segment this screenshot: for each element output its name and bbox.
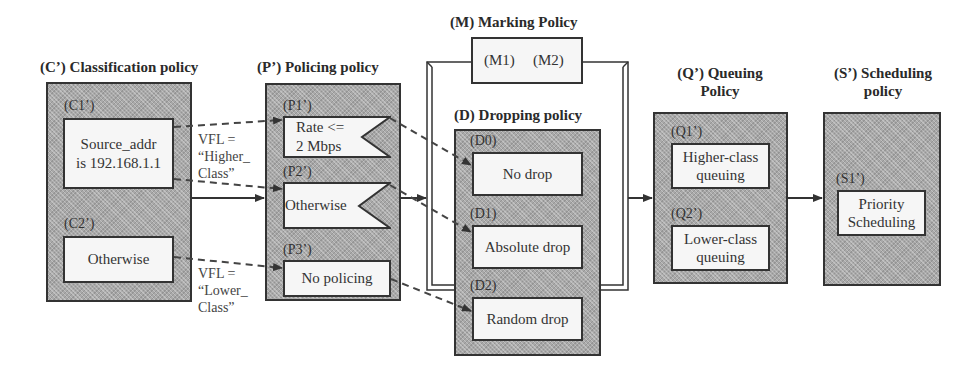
rule-tag-d0: (D0)	[470, 133, 496, 149]
marking-rule-m1: (M1)	[484, 52, 515, 68]
rule-tag-p1: (P1’)	[283, 98, 312, 114]
dropping-policy-title: (D) Dropping policy	[454, 106, 582, 124]
rule-p3-text: No policing	[301, 269, 372, 288]
queuing-title-line1: (Q’) Queuing	[655, 64, 785, 82]
rule-box-p1: Rate <= 2 Mbps	[283, 116, 391, 158]
vfl-lower-line3: Class”	[198, 299, 248, 316]
vfl-higher-line1: VFL =	[198, 131, 250, 148]
rule-d1-text: Absolute drop	[485, 238, 570, 257]
rule-p1-line2: 2 Mbps	[296, 137, 344, 156]
rule-q2-line1: Lower-class	[684, 230, 757, 248]
scheduling-title-line1: (S’) Scheduling	[818, 64, 948, 82]
rule-c2-text: Otherwise	[88, 250, 150, 269]
marking-policy-title: (M) Marking Policy	[450, 13, 577, 31]
rule-tag-p3: (P3’)	[283, 242, 312, 258]
rule-box-c1: Source_addr is 192.168.1.1	[63, 118, 174, 189]
scheduling-policy-title: (S’) Scheduling policy	[818, 64, 948, 100]
rule-tag-c1: (C1’)	[64, 98, 94, 114]
rule-box-d2: Random drop	[472, 297, 583, 341]
rule-d2-text: Random drop	[486, 310, 568, 329]
classification-policy-title: (C’) Classification policy	[40, 58, 198, 76]
rule-tag-d2: (D2)	[470, 278, 496, 294]
rule-p1-line1: Rate <=	[296, 118, 344, 137]
rule-tag-q2: (Q2’)	[671, 206, 702, 222]
rule-tag-s1: (S1’)	[836, 171, 865, 187]
rule-c1-line1: Source_addr	[81, 135, 157, 154]
rule-q1-line2: queuing	[696, 166, 744, 184]
rule-s1-line1: Priority	[859, 195, 905, 213]
rule-box-d1: Absolute drop	[472, 225, 583, 269]
vfl-label-lower: VFL = “Lower_ Class”	[198, 265, 248, 316]
rule-tag-d1: (D1)	[470, 206, 496, 222]
queuing-title-line2: Policy	[655, 82, 785, 100]
rule-tag-c2: (C2’)	[64, 216, 94, 232]
rule-tag-p2: (P2’)	[283, 164, 312, 180]
rule-box-p3: No policing	[283, 260, 391, 297]
queuing-policy-title: (Q’) Queuing Policy	[655, 64, 785, 100]
vfl-lower-line1: VFL =	[198, 265, 248, 282]
rule-box-s1: Priority Scheduling	[837, 190, 926, 236]
rule-box-p2: Otherwise	[283, 182, 391, 229]
vfl-label-higher: VFL = “Higher_ Class”	[198, 131, 250, 182]
rule-box-c2: Otherwise	[63, 236, 174, 283]
scheduling-title-line2: policy	[818, 82, 948, 100]
rule-box-q1: Higher-class queuing	[671, 143, 770, 189]
rule-tag-q1: (Q1’)	[671, 124, 702, 140]
rule-q1-line1: Higher-class	[683, 148, 759, 166]
rule-c1-line2: is 192.168.1.1	[76, 154, 161, 173]
marking-rule-m2: (M2)	[533, 52, 564, 68]
rule-p2-text: Otherwise	[285, 197, 347, 213]
vfl-lower-line2: “Lower_	[198, 282, 248, 299]
rule-q2-line2: queuing	[696, 248, 744, 266]
vfl-higher-line2: “Higher_	[198, 148, 250, 165]
vfl-higher-line3: Class”	[198, 165, 250, 182]
rule-s1-line2: Scheduling	[848, 213, 916, 231]
rule-box-d0: No drop	[472, 152, 583, 196]
policing-policy-title: (P’) Policing policy	[257, 58, 379, 76]
rule-d0-text: No drop	[503, 165, 553, 184]
rule-box-q2: Lower-class queuing	[671, 225, 770, 271]
